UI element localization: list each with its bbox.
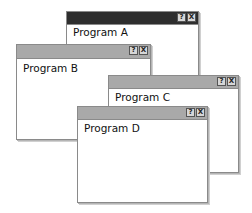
help-button[interactable]: ? <box>186 108 195 117</box>
close-button[interactable]: X <box>227 77 236 86</box>
titlebar-program-c[interactable]: ? X <box>109 76 238 89</box>
window-program-d[interactable]: ? X Program D <box>77 106 208 203</box>
window-content-label: Program B <box>23 62 78 74</box>
window-content-label: Program A <box>73 26 128 38</box>
window-content-label: Program C <box>115 91 170 103</box>
titlebar-program-d[interactable]: ? X <box>78 107 207 120</box>
help-button[interactable]: ? <box>177 13 186 22</box>
close-button[interactable]: X <box>187 13 196 22</box>
titlebar-program-a[interactable]: ? X <box>67 12 198 25</box>
close-button[interactable]: X <box>139 46 148 55</box>
help-button[interactable]: ? <box>217 77 226 86</box>
help-button[interactable]: ? <box>129 46 138 55</box>
titlebar-program-b[interactable]: ? X <box>17 45 150 59</box>
close-button[interactable]: X <box>196 108 205 117</box>
window-content-label: Program D <box>84 122 140 134</box>
